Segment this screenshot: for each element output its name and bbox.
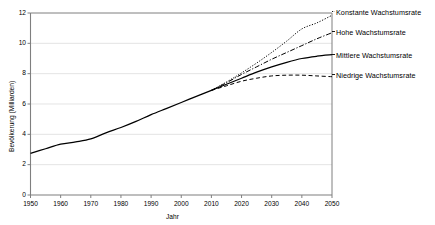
y-tick-label: 0 xyxy=(6,192,26,199)
x-tick-label: 1960 xyxy=(47,201,75,208)
legend-label-mittlere: Mittlere Wachstumsrate xyxy=(336,52,412,59)
x-tick-label: 2030 xyxy=(258,201,286,208)
legend-label-niedrige: Niedrige Wachstumsrate xyxy=(336,72,416,79)
y-tick-label: 8 xyxy=(6,70,26,77)
x-tick-label: 1980 xyxy=(107,201,135,208)
y-tick-label: 6 xyxy=(6,101,26,108)
legend-label-hohe: Hohe Wachstumsrate xyxy=(336,29,406,36)
y-tick-label: 12 xyxy=(6,10,26,17)
chart-legend: Konstante Wachstumsrate Hohe Wachstumsra… xyxy=(0,0,435,225)
x-tick-label: 1990 xyxy=(137,201,165,208)
y-axis-title: Bevölkerung (Milliarden) xyxy=(9,81,16,152)
y-tick-label: 4 xyxy=(6,131,26,138)
y-tick-label: 2 xyxy=(6,161,26,168)
x-tick-label: 1970 xyxy=(77,201,105,208)
x-tick-label: 2050 xyxy=(318,201,346,208)
x-tick-label: 2040 xyxy=(288,201,316,208)
x-tick-label: 2010 xyxy=(197,201,225,208)
y-tick-label: 10 xyxy=(6,40,26,47)
x-tick-label: 2020 xyxy=(228,201,256,208)
x-tick-label: 2000 xyxy=(167,201,195,208)
x-tick-label: 1950 xyxy=(17,201,45,208)
chart-page: Konstante Wachstumsrate Hohe Wachstumsra… xyxy=(0,0,435,225)
x-axis-title: Jahr xyxy=(166,214,179,221)
legend-label-konstante: Konstante Wachstumsrate xyxy=(336,9,421,16)
